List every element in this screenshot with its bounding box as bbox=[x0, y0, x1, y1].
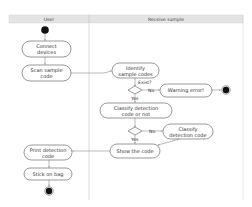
svg-text:Show the code: Show the code bbox=[117, 148, 154, 154]
svg-text:detection code: detection code bbox=[169, 132, 206, 138]
guard-no-2: No bbox=[149, 129, 155, 134]
action-stick-on-bag[interactable]: Stick on bag bbox=[24, 168, 72, 180]
action-warning-error[interactable]: Warning error! bbox=[160, 84, 212, 97]
lane-header-user: User bbox=[44, 17, 55, 22]
svg-text:code: code bbox=[40, 73, 52, 79]
guard-yes-2: Yes bbox=[130, 137, 139, 142]
activity-diagram: User Receive sample Connect devices Scan… bbox=[0, 0, 252, 207]
action-classify-detection-code-or-not[interactable]: Classify detection code or not bbox=[100, 103, 172, 118]
svg-text:sample codes: sample codes bbox=[118, 71, 153, 78]
final-node-error-icon bbox=[222, 86, 230, 94]
initial-node-icon bbox=[41, 26, 49, 34]
action-scan-sample-code[interactable]: Scan sample code bbox=[22, 65, 71, 81]
guard-yes-1: Yes bbox=[130, 96, 139, 101]
final-node-icon bbox=[45, 187, 53, 195]
svg-text:Warning error!: Warning error! bbox=[168, 87, 204, 94]
decision-exist-label: Exist? bbox=[138, 80, 152, 85]
svg-text:Stick on bag: Stick on bag bbox=[33, 171, 64, 178]
guard-no-1: No bbox=[148, 88, 154, 93]
lane-header-receive-sample: Receive sample bbox=[148, 17, 184, 22]
action-show-the-code[interactable]: Show the code bbox=[110, 144, 160, 158]
svg-text:code or not: code or not bbox=[122, 111, 151, 117]
decision-classify-diamond bbox=[128, 127, 142, 135]
action-print-detection-code[interactable]: Print detection code bbox=[24, 145, 72, 160]
svg-text:devices: devices bbox=[37, 49, 56, 55]
action-connect-devices[interactable]: Connect devices bbox=[22, 41, 71, 57]
svg-text:code: code bbox=[42, 153, 54, 159]
decision-exist-diamond bbox=[128, 86, 142, 94]
action-identify-sample-codes[interactable]: Identify sample codes bbox=[112, 63, 159, 78]
action-classify-detection-code[interactable]: Classify detection code bbox=[163, 124, 213, 139]
